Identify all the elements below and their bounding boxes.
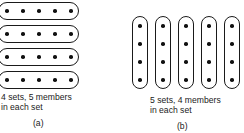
set-2 <box>0 25 79 43</box>
member-dot <box>5 55 9 59</box>
member-dot <box>21 55 25 59</box>
member-dot <box>37 9 41 13</box>
panel-b-label: (b) <box>177 121 188 131</box>
set-4 <box>201 16 217 89</box>
member-dot <box>53 9 57 13</box>
member-dot <box>161 42 165 46</box>
panel-b-caption: 5 sets, 4 members in each set <box>150 95 221 115</box>
member-dot <box>161 60 165 64</box>
set-3 <box>178 16 194 89</box>
member-dot <box>230 60 234 64</box>
set-1 <box>0 2 79 20</box>
member-dot <box>37 55 41 59</box>
member-dot <box>69 55 73 59</box>
member-dot <box>5 9 9 13</box>
member-dot <box>184 24 188 28</box>
member-dot <box>184 78 188 82</box>
member-dot <box>230 42 234 46</box>
panel-a-caption-line1: 4 sets, 5 members <box>1 92 72 102</box>
member-dot <box>37 32 41 36</box>
panel-a-caption: 4 sets, 5 members in each set <box>1 92 72 112</box>
member-dot <box>21 32 25 36</box>
panel-a-label: (a) <box>33 118 44 128</box>
set-2 <box>155 16 171 89</box>
member-dot <box>53 78 57 82</box>
member-dot <box>230 24 234 28</box>
member-dot <box>5 78 9 82</box>
member-dot <box>5 32 9 36</box>
member-dot <box>230 78 234 82</box>
member-dot <box>69 9 73 13</box>
panel-a-caption-line2: in each set <box>1 102 72 112</box>
member-dot <box>69 32 73 36</box>
member-dot <box>161 24 165 28</box>
member-dot <box>138 24 142 28</box>
member-dot <box>207 78 211 82</box>
member-dot <box>138 78 142 82</box>
member-dot <box>53 32 57 36</box>
member-dot <box>184 60 188 64</box>
member-dot <box>184 42 188 46</box>
set-5 <box>224 16 240 89</box>
member-dot <box>69 78 73 82</box>
panel-b-caption-line2: in each set <box>150 105 221 115</box>
member-dot <box>207 24 211 28</box>
set-3 <box>0 48 79 66</box>
member-dot <box>207 60 211 64</box>
panel-b-caption-line1: 5 sets, 4 members <box>150 95 221 105</box>
member-dot <box>138 42 142 46</box>
set-4 <box>0 71 79 89</box>
member-dot <box>21 9 25 13</box>
member-dot <box>138 60 142 64</box>
member-dot <box>37 78 41 82</box>
member-dot <box>207 42 211 46</box>
member-dot <box>161 78 165 82</box>
member-dot <box>21 78 25 82</box>
member-dot <box>53 55 57 59</box>
set-1 <box>132 16 148 89</box>
